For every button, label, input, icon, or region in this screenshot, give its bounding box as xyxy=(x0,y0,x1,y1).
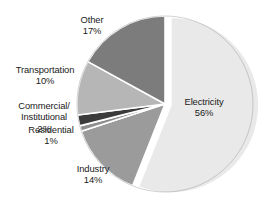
label-industry: Industry 14% xyxy=(62,163,124,186)
label-commercial-line2: Institutional xyxy=(4,111,84,122)
label-industry-value: 14% xyxy=(62,174,124,185)
label-residential-name: Residential xyxy=(16,124,86,135)
label-electricity-name: Electricity xyxy=(173,96,235,107)
label-other: Other 17% xyxy=(60,14,124,37)
label-electricity-value: 56% xyxy=(173,107,235,118)
pie-chart: Other 17% Transportation 10% Commercial/… xyxy=(0,0,272,204)
label-transportation-name: Transportation xyxy=(6,64,84,75)
label-transportation-value: 10% xyxy=(6,75,84,86)
label-industry-name: Industry xyxy=(62,163,124,174)
label-transportation: Transportation 10% xyxy=(6,64,84,87)
label-residential-value: 1% xyxy=(16,135,86,146)
label-other-value: 17% xyxy=(60,25,124,36)
label-commercial-line1: Commercial/ xyxy=(4,100,84,111)
label-other-name: Other xyxy=(60,14,124,25)
label-electricity: Electricity 56% xyxy=(173,96,235,119)
label-residential: Residential 1% xyxy=(16,124,86,147)
